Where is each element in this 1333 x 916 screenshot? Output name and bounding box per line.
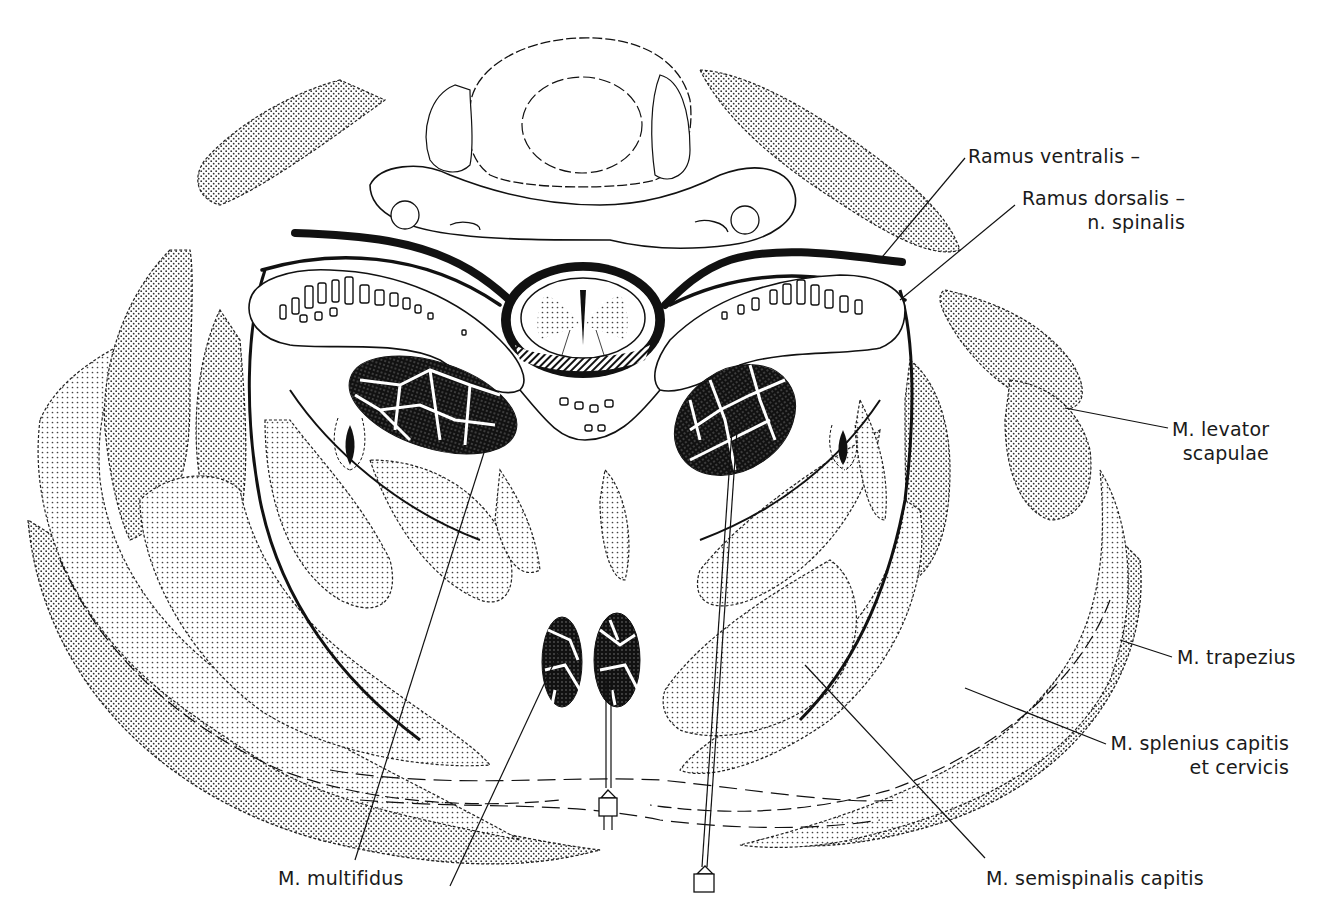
label-splenius-capitis-text: M. splenius capitis (1110, 731, 1289, 755)
label-levator-scapulae-text: M. levator (1172, 417, 1269, 441)
semispinalis-cervicis-muscle (265, 400, 886, 608)
label-trapezius: M. trapezius (1177, 645, 1296, 669)
label-ramus-dorsalis-text-2: n. spinalis (1022, 210, 1185, 234)
label-ramus-dorsalis: Ramus dorsalis – n. spinalis (1022, 186, 1185, 234)
label-ramus-dorsalis-text: Ramus dorsalis – (1022, 186, 1185, 210)
label-multifidus: M. multifidus (278, 866, 404, 890)
label-splenius-capitis-text-2: et cervicis (1110, 755, 1289, 779)
label-ramus-ventralis: Ramus ventralis – (968, 144, 1140, 168)
label-ramus-ventralis-text: Ramus ventralis – (968, 145, 1140, 167)
label-semispinalis-capitis-text: M. semispinalis capitis (986, 867, 1204, 889)
label-multifidus-text: M. multifidus (278, 867, 404, 889)
vertebral-body (370, 38, 796, 248)
label-trapezius-text: M. trapezius (1177, 646, 1296, 668)
label-splenius-capitis: M. splenius capitis et cervicis (1110, 731, 1289, 779)
spinal-cord (501, 262, 665, 378)
label-levator-scapulae-text-2: scapulae (1172, 441, 1269, 465)
label-levator-scapulae: M. levator scapulae (1172, 417, 1269, 465)
label-semispinalis-capitis: M. semispinalis capitis (986, 866, 1204, 890)
